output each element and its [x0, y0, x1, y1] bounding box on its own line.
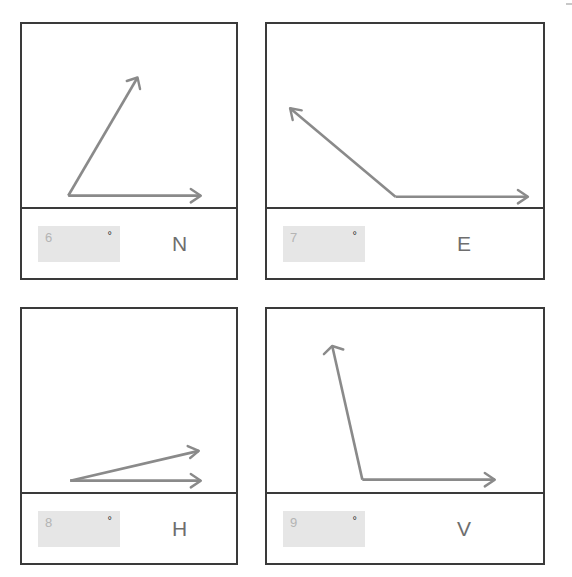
angled-ray-e	[290, 108, 395, 196]
angle-drawing-h	[22, 309, 236, 492]
panel-letter-n: N	[172, 232, 188, 256]
angled-ray-v	[332, 346, 362, 480]
panel-letter-e: E	[457, 232, 472, 256]
angle-worksheet-grid: 6 ° N 7 ° E	[0, 0, 572, 577]
capture-edge-artifact	[566, 3, 572, 5]
degree-input-h[interactable]: 8 °	[38, 511, 120, 547]
angled-ray-h	[70, 451, 199, 481]
degree-input-value-h: 8	[45, 515, 52, 531]
angle-panel-h: 8 ° H	[20, 307, 238, 565]
angled-ray-n	[68, 77, 137, 195]
angle-panel-e: 7 ° E	[265, 22, 545, 280]
panel-letter-v: V	[457, 517, 472, 541]
degree-symbol-icon-n: °	[108, 228, 112, 242]
angle-figure-n-svg	[22, 24, 236, 207]
degree-input-n[interactable]: 6 °	[38, 226, 120, 262]
degree-input-e[interactable]: 7 °	[283, 226, 365, 262]
angle-panel-v: 9 ° V	[265, 307, 545, 565]
angle-footer-h: 8 ° H	[22, 492, 236, 563]
degree-symbol-icon-v: °	[353, 513, 357, 527]
angle-drawing-e	[267, 24, 543, 207]
angle-footer-v: 9 ° V	[267, 492, 543, 563]
degree-symbol-icon-e: °	[353, 228, 357, 242]
angle-footer-e: 7 ° E	[267, 207, 543, 278]
angle-drawing-v	[267, 309, 543, 492]
angle-figure-h-svg	[22, 309, 236, 492]
panel-letter-h: H	[172, 517, 188, 541]
angle-figure-v-svg	[267, 309, 543, 492]
degree-symbol-icon-h: °	[108, 513, 112, 527]
degree-input-value-v: 9	[290, 515, 297, 531]
angle-drawing-n	[22, 24, 236, 207]
angle-figure-e-svg	[267, 24, 543, 207]
angle-panel-n: 6 ° N	[20, 22, 238, 280]
degree-input-value-n: 6	[45, 230, 52, 246]
degree-input-v[interactable]: 9 °	[283, 511, 365, 547]
degree-input-value-e: 7	[290, 230, 297, 246]
angle-footer-n: 6 ° N	[22, 207, 236, 278]
